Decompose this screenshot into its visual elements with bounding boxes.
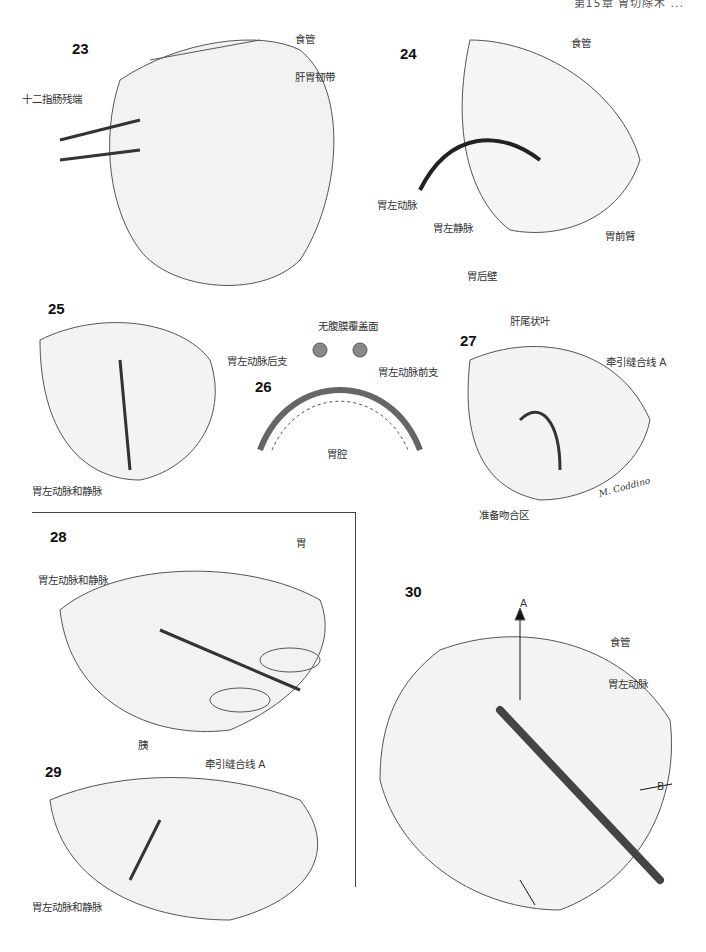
label-anterior-branch-26: 胃左动脉前支 [378, 364, 438, 379]
label-left-gastric-artery-vein-28: 胃左动脉和静脉 [38, 572, 108, 587]
label-duodenal-stump: 十二指肠残端 [22, 91, 82, 106]
figure-number-29: 29 [45, 763, 62, 780]
label-gastric-lumen-26: 胃腔 [327, 446, 347, 461]
label-traction-suture-a-29: 牵引缝合线 A [205, 756, 266, 771]
stomach-outline-28 [60, 571, 325, 731]
stomach-arch-26 [260, 390, 420, 450]
surgical-illustrations [0, 0, 706, 952]
label-b-arrow-30: B [657, 780, 664, 792]
stomach-outline-27 [468, 347, 650, 501]
label-hepatogastric-ligament: 肝胃韧带 [295, 69, 335, 84]
label-stomach-28: 胃 [296, 535, 306, 550]
label-posterior-branch-26: 胃左动脉后支 [227, 353, 287, 368]
label-posterior-wall-24: 胃后壁 [467, 268, 497, 283]
label-caudate-lobe-27: 肝尾状叶 [510, 313, 550, 328]
label-left-gastric-artery-30: 胃左动脉 [608, 676, 648, 691]
stomach-outline-24 [462, 40, 640, 232]
figure-number-25: 25 [48, 300, 65, 317]
figure-number-27: 27 [460, 332, 477, 349]
label-left-gastric-vein-24: 胃左静脉 [433, 220, 473, 235]
label-esophagus-30: 食管 [610, 634, 630, 649]
label-left-gastric-artery-vein-25: 胃左动脉和静脉 [32, 483, 102, 498]
label-a-arrow-30: A [520, 597, 527, 609]
figure-number-24: 24 [400, 45, 417, 62]
figure-frame-top [32, 512, 355, 513]
label-traction-suture-a-27: 牵引缝合线 A [606, 354, 667, 369]
label-bare-area-26: 无腹膜覆盖面 [318, 318, 378, 333]
label-left-gastric-artery-vein-29: 胃左动脉和静脉 [32, 899, 102, 914]
label-pancreas-28: 胰 [138, 737, 148, 752]
figure-frame-right [355, 512, 356, 887]
label-esophagus-23: 食管 [295, 31, 315, 46]
label-esophagus-24: 食管 [571, 35, 591, 50]
figure-number-30: 30 [405, 583, 422, 600]
label-left-gastric-artery-24: 胃左动脉 [377, 197, 417, 212]
label-anterior-wall-24: 胃前臂 [605, 228, 635, 243]
label-anastomosis-area-27: 准备吻合区 [479, 507, 529, 522]
figure-number-23: 23 [72, 40, 89, 57]
figure-number-26: 26 [255, 378, 272, 395]
figure-number-28: 28 [50, 528, 67, 545]
